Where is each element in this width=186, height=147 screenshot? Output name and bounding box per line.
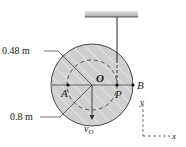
- point-a-label: A: [60, 87, 68, 99]
- inner-radius-label: 0.48 m: [2, 45, 30, 56]
- diagram-canvas: 0.48 m 0.8 m O A P B vO y x: [0, 0, 186, 147]
- y-axis-label: y: [139, 97, 144, 107]
- outer-radius-leader: [40, 114, 63, 117]
- point-b-label: B: [137, 79, 144, 91]
- velocity-subscript: O: [88, 128, 93, 136]
- ceiling-support: [85, 11, 138, 17]
- outer-radius-label: 0.8 m: [10, 111, 33, 122]
- point-p-dot: [115, 83, 118, 86]
- point-p-label: P: [114, 88, 122, 100]
- point-b-dot: [131, 83, 134, 86]
- x-axis-label: x: [171, 131, 176, 141]
- center-label-o: O: [96, 72, 104, 84]
